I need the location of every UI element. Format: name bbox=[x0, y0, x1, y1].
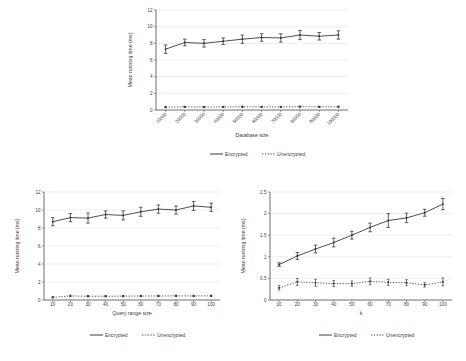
y-tick-label: 2 bbox=[150, 91, 153, 96]
data-point bbox=[278, 287, 280, 289]
data-point bbox=[338, 34, 340, 36]
x-tick-label: 100 bbox=[207, 302, 215, 307]
data-point bbox=[140, 295, 142, 297]
data-point bbox=[297, 255, 299, 257]
x-tick-label: 80 bbox=[173, 302, 179, 307]
data-point bbox=[87, 295, 89, 297]
data-point bbox=[105, 295, 107, 297]
legend-label-encrypted: Encrypted bbox=[334, 332, 357, 338]
data-point bbox=[280, 37, 282, 39]
y-tick-label: 0 bbox=[38, 298, 41, 303]
data-point bbox=[406, 217, 408, 219]
legend-label-unencrypted: Unencrypted bbox=[157, 332, 186, 338]
x-tick-label: 60000 bbox=[251, 111, 264, 124]
data-point bbox=[122, 215, 124, 217]
data-point bbox=[52, 297, 54, 299]
error-bar bbox=[69, 295, 72, 297]
x-tick-label: 50 bbox=[349, 302, 355, 307]
x-tick-label: 20000 bbox=[174, 111, 187, 124]
x-tick-label: 50 bbox=[121, 302, 127, 307]
error-bar bbox=[441, 198, 445, 209]
error-bar bbox=[442, 278, 445, 286]
data-point bbox=[158, 295, 160, 297]
data-point bbox=[122, 295, 124, 297]
data-point bbox=[242, 106, 244, 108]
x-axis-title: Query range size bbox=[112, 310, 152, 316]
error-bar bbox=[368, 223, 372, 232]
data-point bbox=[442, 281, 444, 283]
x-tick-label: 40 bbox=[103, 302, 109, 307]
series-line-encrypted bbox=[279, 204, 443, 264]
data-point bbox=[318, 106, 320, 108]
error-bar bbox=[192, 295, 195, 297]
data-point bbox=[203, 43, 205, 45]
data-point bbox=[105, 214, 107, 216]
chart-legend: EncryptedUnencrypted bbox=[319, 332, 415, 338]
x-tick-label: 30000 bbox=[193, 111, 206, 124]
data-point bbox=[369, 227, 371, 229]
data-point bbox=[388, 281, 390, 283]
x-tick-label: 40 bbox=[331, 302, 337, 307]
y-tick-label: 8 bbox=[38, 226, 41, 231]
data-point bbox=[297, 281, 299, 283]
legend-label-unencrypted: Unencrypted bbox=[277, 151, 306, 157]
y-axis-title: Mean running time (ms) bbox=[240, 218, 246, 273]
query-range-panel: 024681012102030405060708090100Query rang… bbox=[6, 182, 228, 358]
k-panel: 00.511.522.5102030405060708090100kMean r… bbox=[232, 182, 460, 358]
x-tick-label: 80000 bbox=[289, 111, 302, 124]
y-axis-title: Mean running time (ms) bbox=[127, 32, 133, 87]
y-tick-label: 12 bbox=[147, 8, 153, 13]
legend-label-encrypted: Encrypted bbox=[105, 332, 128, 338]
data-point bbox=[315, 282, 317, 284]
data-point bbox=[442, 203, 444, 205]
data-point bbox=[193, 295, 195, 297]
data-point bbox=[175, 209, 177, 211]
x-tick-label: 90 bbox=[422, 302, 428, 307]
data-point bbox=[338, 106, 340, 108]
data-point bbox=[210, 207, 212, 209]
series-line-encrypted bbox=[53, 206, 211, 222]
chart-legend: EncryptedUnencrypted bbox=[90, 332, 186, 338]
y-tick-label: 10 bbox=[147, 24, 153, 29]
data-point bbox=[388, 220, 390, 222]
series-line-unencrypted bbox=[53, 296, 211, 297]
database-size-panel: 0246810121000020000300004000050000600007… bbox=[118, 2, 358, 167]
data-point bbox=[70, 295, 72, 297]
x-tick-label: 70 bbox=[386, 302, 392, 307]
y-tick-label: 6 bbox=[150, 58, 153, 63]
x-tick-label: 90000 bbox=[309, 111, 322, 124]
data-point bbox=[315, 248, 317, 250]
data-point bbox=[184, 42, 186, 44]
data-point bbox=[333, 242, 335, 244]
data-point bbox=[369, 281, 371, 283]
y-tick-label: 10 bbox=[35, 208, 41, 213]
data-point bbox=[351, 283, 353, 285]
data-point bbox=[210, 295, 212, 297]
x-tick-label: 70 bbox=[156, 302, 162, 307]
data-point bbox=[299, 106, 301, 108]
x-tick-label: 10 bbox=[50, 302, 56, 307]
data-point bbox=[165, 48, 167, 50]
x-tick-label: 20 bbox=[295, 302, 301, 307]
data-point bbox=[70, 217, 72, 219]
query-range-size-chart: 024681012102030405060708090100Query rang… bbox=[6, 182, 228, 358]
data-point bbox=[175, 295, 177, 297]
series-line-unencrypted bbox=[279, 281, 443, 287]
data-point bbox=[158, 208, 160, 210]
legend-label-unencrypted: Unencrypted bbox=[386, 332, 415, 338]
data-point bbox=[318, 35, 320, 37]
y-tick-label: 2 bbox=[38, 280, 41, 285]
y-tick-label: 2 bbox=[264, 211, 267, 216]
x-tick-label: 30 bbox=[85, 302, 91, 307]
data-point bbox=[203, 106, 205, 108]
y-tick-label: 0 bbox=[150, 108, 153, 113]
data-point bbox=[222, 106, 224, 108]
x-tick-label: 60 bbox=[138, 302, 144, 307]
x-tick-label: 80 bbox=[404, 302, 410, 307]
data-point bbox=[424, 212, 426, 214]
y-tick-label: 0.5 bbox=[260, 276, 267, 281]
data-point bbox=[278, 264, 280, 266]
error-bar bbox=[260, 106, 263, 108]
data-point bbox=[52, 221, 54, 223]
y-tick-label: 12 bbox=[35, 190, 41, 195]
